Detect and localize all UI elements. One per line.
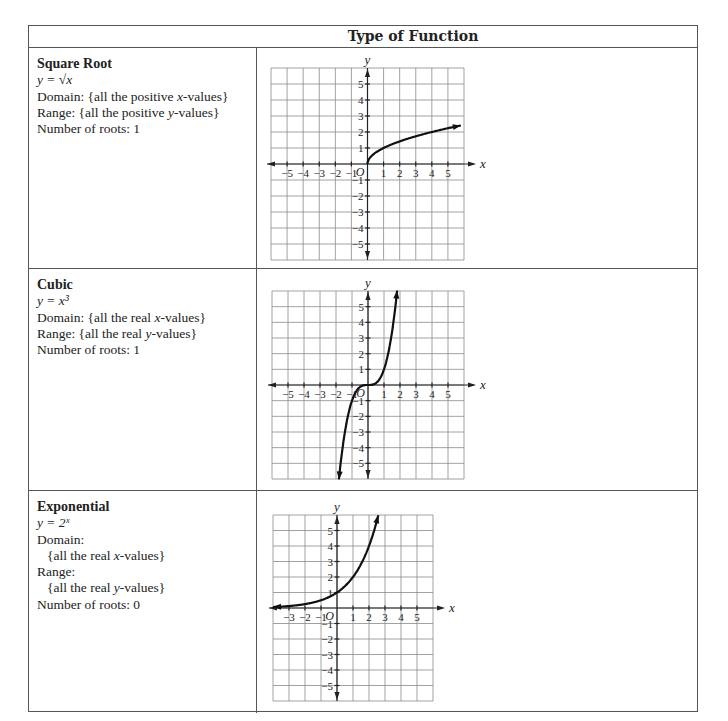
coordinate-plane: −3−2−112345−5−4−3−2−112345Oxy <box>257 491 517 711</box>
svg-text:4: 4 <box>328 540 334 552</box>
svg-text:5: 5 <box>328 525 334 537</box>
arrow-icon <box>365 292 370 300</box>
svg-text:5: 5 <box>445 388 451 400</box>
svg-text:4: 4 <box>359 316 365 328</box>
svg-text:x: x <box>479 156 486 171</box>
arrow-icon <box>468 161 476 166</box>
arrow-icon <box>365 69 370 77</box>
function-name: Cubic <box>37 277 256 293</box>
svg-text:O: O <box>356 165 365 179</box>
svg-text:O: O <box>325 609 334 623</box>
svg-text:−3: −3 <box>352 206 364 218</box>
function-properties: Domain: {all the positive x-values}Range… <box>37 89 256 138</box>
svg-text:−3: −3 <box>314 388 326 400</box>
svg-text:5: 5 <box>358 78 364 90</box>
svg-text:2: 2 <box>359 348 365 360</box>
function-types-table: Type of Function Square Root y = √x Doma… <box>28 25 698 712</box>
function-property-line: Domain: {all the positive x-values} <box>37 89 256 105</box>
svg-text:−4: −4 <box>352 222 364 234</box>
table-header: Type of Function <box>29 26 697 48</box>
function-properties: Domain:{all the real x-values}Range:{all… <box>37 532 256 613</box>
svg-text:−3: −3 <box>321 649 333 661</box>
svg-text:−5: −5 <box>281 167 293 179</box>
svg-text:x: x <box>448 600 455 615</box>
function-description: Square Root y = √x Domain: {all the posi… <box>29 48 257 268</box>
function-property-line: Number of roots: 0 <box>37 597 256 613</box>
arrow-icon <box>468 382 476 387</box>
table-row-exponential: Exponential y = 2ˣ Domain:{all the real … <box>29 491 697 713</box>
svg-text:−5: −5 <box>282 388 294 400</box>
svg-text:−4: −4 <box>352 442 364 454</box>
arrow-icon <box>334 692 339 700</box>
svg-text:2: 2 <box>397 167 403 179</box>
arrow-icon <box>365 470 370 478</box>
function-name: Exponential <box>37 499 256 515</box>
axes <box>269 515 445 701</box>
function-formula: y = x³ <box>37 293 256 309</box>
axes <box>267 68 476 260</box>
svg-text:2: 2 <box>328 571 334 583</box>
svg-text:−2: −2 <box>330 388 342 400</box>
function-description: Cubic y = x³ Domain: {all the real x-val… <box>29 269 257 490</box>
coordinate-plane: −5−4−3−2−112345−5−4−3−2−112345Oxy <box>257 48 517 268</box>
svg-text:−2: −2 <box>299 611 311 623</box>
svg-text:−5: −5 <box>321 680 333 692</box>
function-property-line: Domain: {all the real x-values} <box>37 310 256 326</box>
svg-text:5: 5 <box>445 167 451 179</box>
function-properties: Domain: {all the real x-values}Range: {a… <box>37 310 256 359</box>
svg-text:2: 2 <box>366 611 372 623</box>
function-description: Exponential y = 2ˣ Domain:{all the real … <box>29 491 257 713</box>
table-row-cubic: Cubic y = x³ Domain: {all the real x-val… <box>29 269 697 491</box>
function-name: Square Root <box>37 56 256 72</box>
svg-text:4: 4 <box>429 388 435 400</box>
function-property-line: Range: {all the real y-values} <box>37 326 256 342</box>
arrow-icon <box>365 251 370 259</box>
svg-text:−2: −2 <box>329 167 341 179</box>
svg-text:−3: −3 <box>313 167 325 179</box>
function-property-line: Number of roots: 1 <box>37 342 256 358</box>
svg-text:3: 3 <box>358 110 364 122</box>
svg-text:−2: −2 <box>352 410 364 422</box>
svg-text:y: y <box>363 52 371 67</box>
svg-text:y: y <box>332 499 340 514</box>
svg-text:3: 3 <box>413 167 419 179</box>
svg-text:−2: −2 <box>352 190 364 202</box>
exponential-graph: −3−2−112345−5−4−3−2−112345Oxy <box>257 491 517 715</box>
coordinate-plane: −5−4−3−2−112345−5−4−3−2−112345Oxy <box>257 269 517 489</box>
svg-text:4: 4 <box>429 167 435 179</box>
curve-arrow-icon <box>373 515 379 524</box>
svg-text:1: 1 <box>358 142 364 154</box>
square-root-graph: −5−4−3−2−112345−5−4−3−2−112345Oxy <box>257 48 517 272</box>
svg-text:−2: −2 <box>321 633 333 645</box>
function-property-line: Number of roots: 1 <box>37 121 256 137</box>
svg-text:4: 4 <box>358 94 364 106</box>
function-formula: y = 2ˣ <box>37 515 256 531</box>
function-property-line: Range: <box>37 564 256 580</box>
svg-text:2: 2 <box>358 126 364 138</box>
svg-text:1: 1 <box>381 388 387 400</box>
svg-text:1: 1 <box>381 167 387 179</box>
svg-text:−4: −4 <box>321 664 333 676</box>
cubic-graph: −5−4−3−2−112345−5−4−3−2−112345Oxy <box>257 269 517 493</box>
svg-text:1: 1 <box>350 611 356 623</box>
svg-text:4: 4 <box>398 611 404 623</box>
function-property-line: Range: {all the positive y-values} <box>37 105 256 121</box>
svg-text:3: 3 <box>382 611 388 623</box>
svg-text:5: 5 <box>359 301 365 313</box>
function-curve <box>368 126 461 165</box>
svg-text:−4: −4 <box>297 167 309 179</box>
svg-text:−3: −3 <box>352 426 364 438</box>
svg-text:x: x <box>479 377 486 392</box>
svg-text:5: 5 <box>414 611 420 623</box>
function-formula: y = √x <box>37 72 256 88</box>
function-property-line: {all the real x-values} <box>37 548 256 564</box>
table-row-square-root: Square Root y = √x Domain: {all the posi… <box>29 48 697 269</box>
svg-text:3: 3 <box>328 556 334 568</box>
function-property-line: {all the real y-values} <box>37 580 256 596</box>
arrow-icon <box>437 605 445 610</box>
svg-text:1: 1 <box>359 363 365 375</box>
svg-text:3: 3 <box>413 388 419 400</box>
svg-text:−3: −3 <box>283 611 295 623</box>
svg-text:y: y <box>363 275 371 290</box>
arrow-icon <box>334 516 339 524</box>
